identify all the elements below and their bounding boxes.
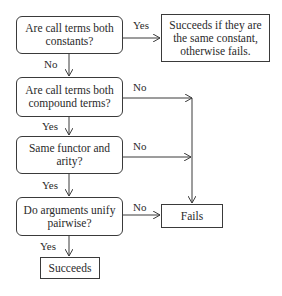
- decision-text: Are call terms both compound terms?: [17, 84, 122, 110]
- outcome-text: Fails: [181, 210, 203, 223]
- outcome-succeeds: Succeeds: [40, 257, 100, 279]
- decision-text: Do arguments unify pairwise?: [17, 204, 122, 230]
- edge-label-d2-no: No: [133, 81, 146, 93]
- decision-both-constants: Are call terms both constants?: [16, 16, 123, 54]
- outcome-text: Succeeds: [49, 262, 92, 275]
- decision-text: Same functor and arity?: [17, 142, 122, 168]
- edge-label-d1-no: No: [44, 58, 57, 70]
- edge-label-d3-no: No: [133, 140, 146, 152]
- decision-text: Are call terms both constants?: [17, 22, 122, 48]
- decision-same-functor-arity: Same functor and arity?: [16, 136, 123, 174]
- edge-label-d4-yes: Yes: [40, 240, 56, 252]
- decision-arguments-unify: Do arguments unify pairwise?: [16, 197, 123, 236]
- edge-label-d4-no: No: [133, 201, 146, 213]
- decision-both-compound: Are call terms both compound terms?: [16, 77, 123, 117]
- edge-label-d3-yes: Yes: [42, 179, 58, 191]
- outcome-constants: Succeeds if they are the same constant, …: [161, 14, 270, 62]
- edge-label-d1-yes: Yes: [133, 19, 149, 31]
- outcome-text: Succeeds if they are the same constant, …: [166, 19, 265, 58]
- outcome-fails: Fails: [161, 204, 223, 228]
- edge-label-d2-yes: Yes: [42, 120, 58, 132]
